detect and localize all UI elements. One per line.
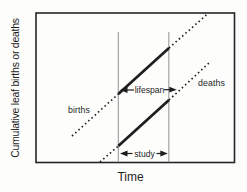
deaths-curve xyxy=(100,62,210,162)
deaths-dotted-segment-left xyxy=(100,146,118,162)
deaths-curve-label: deaths xyxy=(198,78,226,88)
lifespan-annotation-label: lifespan xyxy=(135,85,165,95)
lifespan-right-arrowhead-icon xyxy=(169,87,177,93)
leaf-demography-figure: births deaths lifespan study Time Cumula… xyxy=(0,0,247,192)
study-annotation: study xyxy=(120,149,168,159)
study-annotation-label: study xyxy=(134,149,155,159)
births-dotted-segment-right xyxy=(169,14,208,49)
study-left-arrowhead-icon xyxy=(120,151,128,157)
births-curve-label: births xyxy=(68,105,91,115)
births-dotted-segment-left xyxy=(72,94,118,136)
y-axis-label: Cumulative leaf births or deaths xyxy=(9,18,21,158)
x-axis-label: Time xyxy=(117,170,144,184)
study-right-arrowhead-icon xyxy=(160,151,168,157)
chart-canvas: births deaths lifespan study Time Cumula… xyxy=(0,0,247,192)
births-curve xyxy=(72,14,208,137)
deaths-solid-segment xyxy=(118,100,169,146)
